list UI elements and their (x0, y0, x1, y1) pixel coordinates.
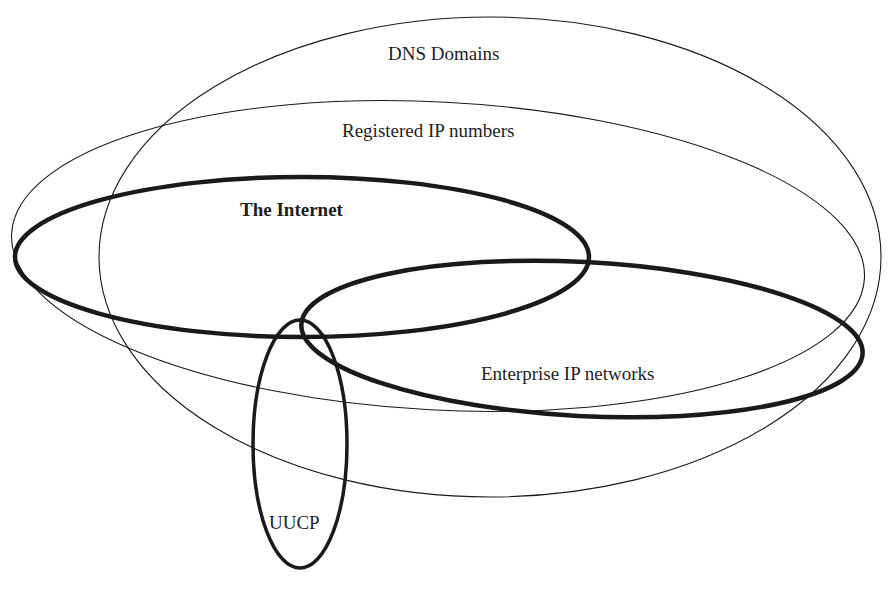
internet-label: The Internet (240, 200, 343, 219)
venn-diagram (0, 0, 889, 591)
uucp-label: UUCP (269, 513, 320, 532)
dns-domains-ellipse (99, 17, 881, 497)
enterprise-ip-networks-label: Enterprise IP networks (481, 364, 654, 383)
dns-domains-label: DNS Domains (388, 44, 499, 63)
registered-ip-numbers-label: Registered IP numbers (342, 121, 514, 140)
